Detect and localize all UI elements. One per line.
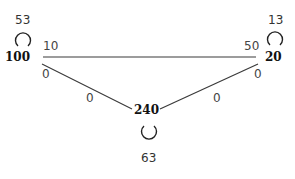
- self-loop-label-20: 13: [268, 13, 283, 27]
- edge-20-240: [160, 64, 258, 109]
- node-240: 240: [134, 103, 159, 117]
- edge-label-20-240-near-20: 0: [254, 67, 262, 81]
- edge-label-100-240-near-100: 0: [42, 67, 50, 81]
- self-loop-label-100: 53: [15, 13, 30, 27]
- edge-label-20-240-near-240: 0: [213, 91, 221, 105]
- edge-label-100-20-near-100: 10: [43, 39, 58, 53]
- self-loop-100: [16, 33, 31, 46]
- self-loop-240: [142, 126, 157, 139]
- graph-canvas: 100 20 240 53 13 63 10 50 0 0 0 0: [0, 0, 295, 179]
- edge-label-100-20-near-20: 50: [244, 39, 259, 53]
- edge-label-100-240-near-240: 0: [86, 91, 94, 105]
- node-100: 100: [5, 50, 30, 64]
- self-loop-label-240: 63: [141, 151, 156, 165]
- node-20: 20: [265, 50, 282, 64]
- self-loop-20: [268, 32, 283, 45]
